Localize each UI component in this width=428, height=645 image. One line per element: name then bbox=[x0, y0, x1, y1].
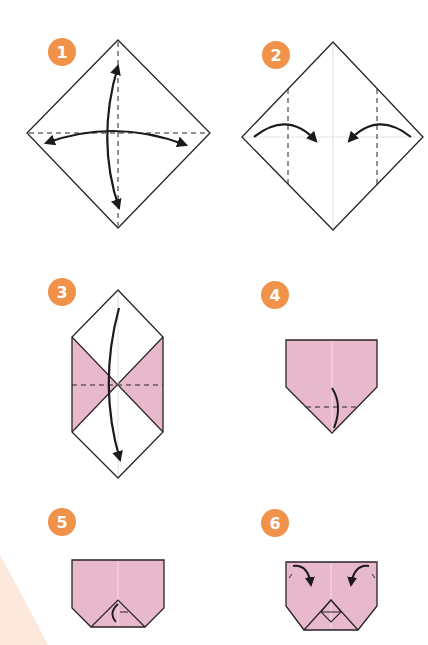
step-badge-1: 1 bbox=[48, 38, 76, 66]
step-3-diagram bbox=[72, 290, 163, 478]
step-badge-6: 6 bbox=[261, 509, 289, 537]
step-number: 4 bbox=[269, 286, 280, 305]
step-2-diagram bbox=[242, 42, 423, 230]
step-6-diagram bbox=[286, 562, 377, 630]
origami-diagram: 1 2 3 4 5 6 bbox=[0, 0, 428, 645]
step-badge-2: 2 bbox=[262, 41, 290, 69]
step-number: 5 bbox=[56, 513, 67, 532]
step-badge-3: 3 bbox=[48, 278, 76, 306]
step-badge-5: 5 bbox=[48, 508, 76, 536]
step-number: 6 bbox=[269, 514, 280, 533]
diagram-canvas bbox=[0, 0, 428, 645]
step-number: 3 bbox=[56, 283, 67, 302]
step-badge-4: 4 bbox=[261, 281, 289, 309]
step-1-diagram bbox=[27, 40, 210, 228]
step-5-diagram bbox=[72, 560, 164, 627]
step-number: 2 bbox=[270, 46, 281, 65]
step-number: 1 bbox=[56, 43, 67, 62]
step-4-diagram bbox=[286, 340, 377, 433]
background-accent-shape bbox=[0, 555, 48, 645]
